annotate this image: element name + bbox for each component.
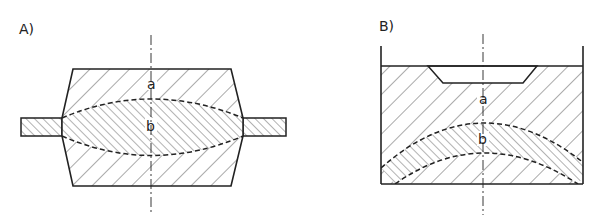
region-label-b-b: b (478, 131, 487, 147)
region-label-b-a: a (479, 91, 488, 107)
flash-left (21, 118, 62, 136)
region-label-a-b: b (146, 118, 155, 134)
region-label-a-a: a (147, 76, 156, 92)
diagram-canvas: A) a b B) a b (0, 0, 606, 218)
panel-b: B) a b (379, 18, 590, 215)
flash-right (243, 118, 286, 136)
panel-a: A) a b (19, 21, 286, 215)
panel-label-a: A) (19, 21, 34, 37)
panel-label-b: B) (379, 18, 394, 34)
punch-recess (428, 66, 537, 83)
